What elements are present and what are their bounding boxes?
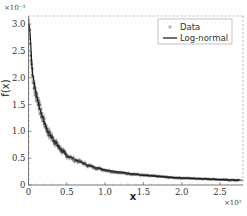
y-tick-label: 2.5 bbox=[12, 46, 26, 56]
legend-label-data: Data bbox=[180, 22, 200, 32]
y-tick-label: 1.5 bbox=[12, 100, 26, 110]
fit-curve bbox=[29, 24, 243, 180]
y-axis-title: f(x) bbox=[0, 79, 11, 96]
legend: Data Log-normal bbox=[158, 19, 232, 44]
legend-label-fit: Log-normal bbox=[180, 33, 228, 43]
data-marker-icon bbox=[168, 25, 172, 29]
y-tick-label: 3.0 bbox=[12, 19, 26, 29]
y-tick-label: 0 bbox=[20, 180, 25, 190]
x-tick-label: 0.5 bbox=[60, 187, 74, 197]
x-tick-label: 2.5 bbox=[213, 187, 227, 197]
y-tick-label: 0.5 bbox=[12, 153, 26, 163]
x-tick-label: 2.0 bbox=[175, 187, 189, 197]
x-multiplier: ×10² bbox=[224, 199, 242, 207]
x-tick-label: 1.0 bbox=[98, 187, 112, 197]
y-multiplier: ×10⁻³ bbox=[4, 4, 25, 12]
chart: 00.51.01.52.02.500.51.01.52.02.53.0 ×10⁻… bbox=[0, 0, 247, 216]
y-tick-label: 2.0 bbox=[12, 73, 26, 83]
x-tick-label: 1.5 bbox=[137, 187, 151, 197]
x-axis-title: x bbox=[130, 191, 137, 202]
y-tick-label: 1.0 bbox=[12, 126, 26, 136]
x-tick-label: 0 bbox=[26, 187, 31, 197]
